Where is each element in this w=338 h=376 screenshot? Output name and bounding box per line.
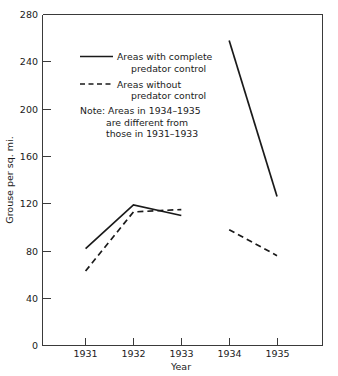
legend-note-line2: are different from <box>106 117 188 128</box>
y-axis-tick-labels: 280 240 200 160 120 80 40 0 <box>20 9 38 351</box>
x-axis-title: Year <box>170 361 191 372</box>
legend-label-with-control-line2: predator control <box>131 63 206 74</box>
y-tick-label-80: 80 <box>26 246 38 257</box>
y-axis-title: Grouse per sq. mi. <box>4 136 15 223</box>
y-axis-ticks <box>43 15 51 299</box>
chart-legend: Areas with complete predator control Are… <box>80 51 213 139</box>
legend-note-line3: those in 1931–1933 <box>106 128 198 139</box>
x-tick-label-1933: 1933 <box>169 348 193 359</box>
x-tick-label-1934: 1934 <box>217 348 241 359</box>
y-tick-label-160: 160 <box>20 151 38 162</box>
legend-label-without-control-line2: predator control <box>131 90 206 101</box>
y-tick-label-200: 200 <box>20 104 38 115</box>
series-with-control-segment-2 <box>229 41 277 197</box>
x-tick-label-1931: 1931 <box>73 348 97 359</box>
legend-label-with-control-line1: Areas with complete <box>117 51 213 62</box>
series-with-control-segment-1 <box>86 205 182 249</box>
series-without-control-segment-2 <box>229 230 277 256</box>
x-axis-ticks <box>86 338 278 346</box>
y-tick-label-120: 120 <box>20 198 38 209</box>
chart-figure: 280 240 200 160 120 80 40 0 Grouse per s… <box>0 0 338 376</box>
grouse-line-chart: 280 240 200 160 120 80 40 0 Grouse per s… <box>0 0 338 376</box>
y-tick-label-280: 280 <box>20 9 38 20</box>
legend-label-without-control-line1: Areas without <box>117 79 181 90</box>
y-tick-label-40: 40 <box>26 293 38 304</box>
data-series-group <box>86 41 277 272</box>
x-tick-label-1932: 1932 <box>121 348 145 359</box>
legend-note-line1: Note: Areas in 1934–1935 <box>80 105 201 116</box>
y-tick-label-240: 240 <box>20 56 38 67</box>
y-tick-label-0: 0 <box>32 340 38 351</box>
series-without-control-segment-1 <box>86 210 182 271</box>
x-tick-label-1935: 1935 <box>265 348 289 359</box>
x-axis-tick-labels: 1931 1932 1933 1934 1935 <box>73 348 289 359</box>
